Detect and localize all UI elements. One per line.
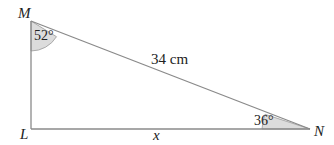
side-label-hypotenuse: 34 cm — [151, 52, 188, 67]
side-label-base: x — [153, 128, 160, 143]
triangle-diagram — [0, 0, 334, 145]
vertex-label-l: L — [20, 127, 28, 142]
vertex-label-m: M — [18, 6, 31, 21]
angle-label-n: 36° — [254, 114, 274, 128]
vertex-label-n: N — [314, 124, 324, 139]
angle-label-m: 52° — [34, 29, 54, 43]
